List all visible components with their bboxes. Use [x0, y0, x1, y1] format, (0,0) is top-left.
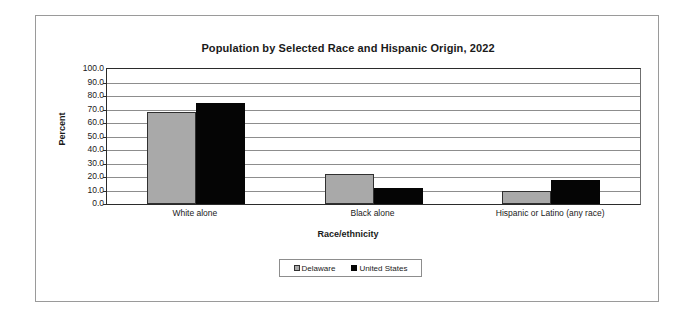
bar-delaware-hispanic-or-latino-any-race — [502, 191, 551, 205]
bar-united-states-hispanic-or-latino-any-race — [551, 180, 600, 204]
legend-label: Delaware — [302, 264, 336, 273]
y-axis-tick-mark — [103, 110, 107, 111]
y-axis-tick-mark — [103, 150, 107, 151]
y-axis-tick-mark — [103, 83, 107, 84]
y-axis-tick-mark — [103, 96, 107, 97]
y-axis-tick-mark — [103, 177, 107, 178]
y-axis-tick-label: 70.0 — [60, 104, 104, 113]
y-axis-tick-mark — [103, 204, 107, 205]
y-axis-tick-label: 40.0 — [60, 145, 104, 154]
chart-legend: DelawareUnited States — [279, 259, 422, 277]
legend-item-united-states: United States — [351, 264, 407, 273]
y-axis-tick-mark — [103, 164, 107, 165]
y-axis-tick-label: 20.0 — [60, 172, 104, 181]
figure-frame: Population by Selected Race and Hispanic… — [35, 15, 659, 302]
y-axis-tick-label: 60.0 — [60, 118, 104, 127]
y-axis-tick-label: 50.0 — [60, 131, 104, 140]
y-axis-tick-label: 10.0 — [60, 185, 104, 194]
bar-united-states-black-alone — [374, 188, 423, 204]
legend-swatch-icon — [351, 265, 357, 271]
gridline — [107, 96, 640, 97]
x-axis-category-label: White alone — [106, 208, 284, 218]
plot-area — [106, 68, 641, 205]
x-axis-category-label: Hispanic or Latino (any race) — [461, 208, 639, 218]
page-title: Population by Selected Race and Hispanic… — [36, 42, 660, 54]
x-axis-category-label: Black alone — [284, 208, 462, 218]
bar-united-states-white-alone — [196, 103, 245, 204]
y-axis-tick-label: 90.0 — [60, 77, 104, 86]
legend-swatch-icon — [294, 265, 300, 271]
y-axis-tick-mark — [103, 137, 107, 138]
bar-delaware-white-alone — [147, 112, 196, 204]
chart-page: Population by Selected Race and Hispanic… — [0, 0, 692, 317]
y-axis-tick-label: 100.0 — [60, 64, 104, 73]
x-axis-title: Race/ethnicity — [36, 229, 660, 239]
y-axis-tick-label: 80.0 — [60, 91, 104, 100]
gridline — [107, 83, 640, 84]
bar-delaware-black-alone — [325, 174, 374, 204]
y-axis-tick-labels: 100.090.080.070.060.050.040.030.020.010.… — [60, 62, 104, 204]
y-axis-tick-label: 30.0 — [60, 158, 104, 167]
gridline — [107, 110, 640, 111]
legend-label: United States — [359, 264, 407, 273]
y-axis-tick-mark — [103, 123, 107, 124]
y-axis-tick-label: 0.0 — [60, 199, 104, 208]
y-axis-tick-mark — [103, 191, 107, 192]
legend-item-delaware: Delaware — [294, 264, 336, 273]
